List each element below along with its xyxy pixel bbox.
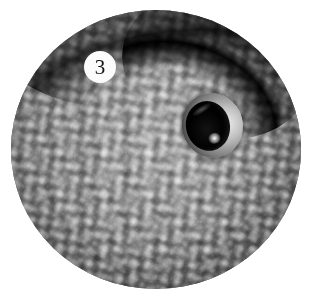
circular-crop-vignette [11,10,301,289]
panel-label-text: 3 [95,57,106,78]
specimen-photograph [11,10,301,289]
panel-label-badge: 3 [84,51,116,83]
figure-panel: 3 [0,0,322,302]
